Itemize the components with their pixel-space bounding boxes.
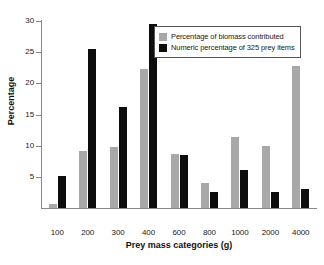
y-axis-tick-label: 5 — [0, 173, 34, 181]
y-axis-tick-label: 30 — [0, 17, 34, 25]
bar-biomass-600 — [171, 154, 179, 208]
y-axis-tick — [36, 83, 41, 84]
y-axis-tick — [36, 177, 41, 178]
bar-numeric-300 — [119, 107, 127, 208]
bar-biomass-400 — [140, 69, 148, 208]
legend-label: Percentage of biomass contributed — [171, 32, 284, 41]
bar-numeric-600 — [180, 155, 188, 208]
bar-biomass-300 — [110, 147, 118, 208]
legend-label: Numeric percentage of 325 prey items — [171, 43, 295, 52]
chart-legend: Percentage of biomass contributedNumeric… — [154, 26, 301, 58]
bar-numeric-2000 — [271, 192, 279, 208]
bar-biomass-800 — [201, 183, 209, 208]
bar-chart-figure: 30252015105 1002003004006008001000200040… — [0, 0, 324, 265]
y-axis-tick-label: 25 — [0, 48, 34, 56]
bar-numeric-100 — [58, 176, 66, 208]
x-axis-line — [41, 208, 317, 209]
y-axis-tick — [36, 21, 41, 22]
y-axis-tick-label: 10 — [0, 142, 34, 150]
bar-biomass-4000 — [292, 66, 300, 208]
legend-swatch-black — [159, 44, 167, 52]
bar-biomass-200 — [79, 151, 87, 208]
bar-numeric-4000 — [301, 189, 309, 208]
legend-swatch-grey — [159, 33, 167, 41]
caption-strip — [16, 256, 306, 263]
y-axis-title: Percentage — [6, 61, 16, 141]
y-axis-tick — [36, 52, 41, 53]
x-axis-title: Prey mass categories (g) — [41, 240, 317, 250]
bar-numeric-1000 — [240, 170, 248, 208]
legend-item: Percentage of biomass contributed — [159, 31, 295, 42]
x-axis-tick-label: 4000 — [281, 228, 321, 237]
y-axis-tick — [36, 146, 41, 147]
bar-numeric-800 — [210, 192, 218, 208]
bar-biomass-1000 — [231, 137, 239, 208]
bar-biomass-2000 — [262, 146, 270, 208]
y-axis-tick — [36, 115, 41, 116]
bar-numeric-200 — [88, 49, 96, 208]
legend-item: Numeric percentage of 325 prey items — [159, 42, 295, 53]
bar-biomass-100 — [49, 204, 57, 208]
